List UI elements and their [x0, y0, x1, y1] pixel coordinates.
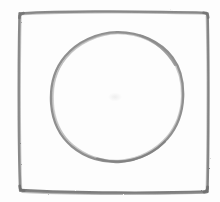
sketch-canvas: hand-drawn sketch of a circle inside a s…: [0, 0, 220, 202]
sketch-drawing: [0, 0, 220, 202]
paper-background: [0, 0, 220, 202]
center-smudge: [108, 93, 122, 102]
